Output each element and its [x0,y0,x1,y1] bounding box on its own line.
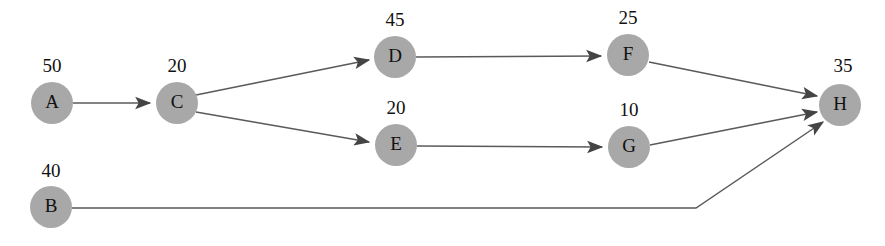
node-a[interactable]: A50 [31,55,73,124]
node-label-a: A [45,91,59,112]
nodes-layer: A50B40C20D45E20F25G10H35 [30,7,861,228]
node-h[interactable]: H35 [819,55,861,126]
node-label-h: H [833,93,847,114]
node-weight-f: 25 [619,7,638,28]
node-weight-g: 10 [620,99,639,120]
edge-c-to-e [196,112,369,142]
node-weight-a: 50 [43,55,62,76]
edge-f-to-h [649,62,817,96]
node-label-c: C [171,91,184,112]
node-c[interactable]: C20 [156,55,198,124]
node-label-b: B [45,195,58,216]
node-weight-d: 45 [386,9,405,30]
node-e[interactable]: E20 [375,97,417,166]
node-weight-c: 20 [168,55,187,76]
edge-g-to-h [650,112,817,145]
edge-e-to-g [417,146,602,147]
node-weight-b: 40 [42,160,61,181]
edge-c-to-d [196,60,369,95]
node-label-f: F [623,43,634,64]
graph-diagram: A50B40C20D45E20F25G10H35 [0,0,885,246]
node-weight-e: 20 [387,97,406,118]
node-label-d: D [388,45,402,66]
node-b[interactable]: B40 [30,160,72,228]
node-d[interactable]: D45 [374,9,416,78]
node-f[interactable]: F25 [607,7,649,76]
node-label-e: E [390,133,402,154]
node-g[interactable]: G10 [608,99,650,168]
edge-d-to-f [416,56,601,57]
edges-layer [72,56,823,208]
graph-svg: A50B40C20D45E20F25G10H35 [0,0,885,246]
node-weight-h: 35 [834,55,853,76]
node-label-g: G [622,135,636,156]
edge-b-to-h [72,122,823,208]
